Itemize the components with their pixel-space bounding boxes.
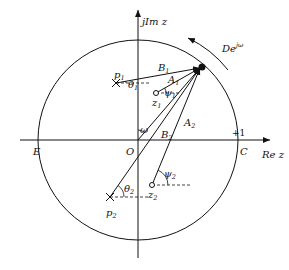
point-C-label: C (240, 146, 248, 157)
real-axis-label: Re z (261, 149, 285, 160)
z-plane-diagram: jIm z Re z +1 O C E Dejω p1 p2 z1 z2 B1 … (0, 0, 289, 270)
angle-theta1-label: θ1 (128, 79, 138, 92)
pole-p2-label: p2 (106, 207, 117, 220)
angle-psi2-label: ψ2 (164, 168, 176, 181)
origin-label: O (126, 146, 134, 157)
point-D (199, 64, 206, 71)
angle-theta1-arc (126, 81, 127, 83)
zero-z2-marker (150, 183, 155, 188)
arc-label: Dejω (221, 41, 244, 54)
vector-A1-label: A1 (167, 74, 179, 87)
angle-theta2-label: θ2 (124, 183, 134, 196)
point-E-label: E (32, 146, 41, 157)
unit-label: +1 (232, 128, 245, 138)
zero-z1-marker (154, 91, 159, 96)
angle-omega-label: ω (140, 124, 148, 135)
vector-A2-label: A2 (183, 117, 195, 130)
zero-z2-label: z2 (147, 189, 157, 202)
zero-z1-label: z1 (151, 97, 161, 110)
angle-psi1-label: ψ1 (164, 87, 176, 100)
imag-axis-label: jIm z (140, 16, 168, 27)
